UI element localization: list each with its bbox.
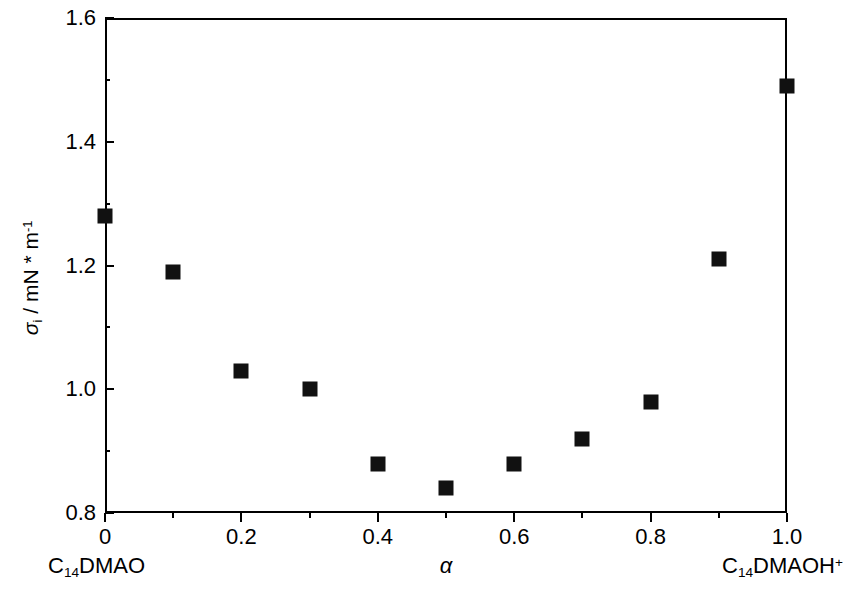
endpoint-left-subscript: 14 bbox=[64, 565, 79, 580]
endpoint-left-suffix: DMAO bbox=[79, 553, 145, 578]
endpoint-right-subscript: 14 bbox=[738, 565, 753, 580]
data-point-marker bbox=[711, 252, 726, 267]
x-tick-major bbox=[377, 513, 379, 522]
endpoint-label-right: C14DMAOH+ bbox=[722, 553, 843, 580]
data-point-marker bbox=[780, 79, 795, 94]
endpoint-right-superscript: + bbox=[835, 555, 843, 570]
y-tick-major bbox=[105, 265, 114, 267]
x-tick-minor bbox=[445, 513, 447, 518]
data-point-marker bbox=[643, 394, 658, 409]
data-point-marker bbox=[507, 456, 522, 471]
data-point-marker bbox=[575, 431, 590, 446]
x-tick-minor bbox=[581, 513, 583, 518]
y-tick-minor bbox=[105, 79, 110, 81]
data-point-marker bbox=[302, 382, 317, 397]
y-tick-minor bbox=[105, 450, 110, 452]
x-tick-major bbox=[786, 513, 788, 522]
x-tick-label: 0.2 bbox=[226, 525, 257, 549]
x-tick-label: 0.6 bbox=[499, 525, 530, 549]
x-tick-major bbox=[513, 513, 515, 522]
x-tick-label: 0 bbox=[99, 525, 111, 549]
x-tick-major bbox=[240, 513, 242, 522]
x-tick-minor bbox=[172, 513, 174, 518]
endpoint-left-prefix: C bbox=[48, 553, 64, 578]
endpoint-right-suffix: DMAOH bbox=[753, 553, 835, 578]
data-point-marker bbox=[439, 481, 454, 496]
x-tick-label: 1.0 bbox=[772, 525, 803, 549]
y-axis-unit-exponent: -1 bbox=[20, 220, 35, 232]
y-axis-units: / mN * m bbox=[19, 232, 42, 320]
y-axis-sigma-symbol: σ bbox=[19, 322, 42, 335]
data-point-marker bbox=[370, 456, 385, 471]
x-axis-alpha-symbol: α bbox=[440, 553, 453, 578]
endpoint-label-left: C14DMAO bbox=[48, 553, 145, 580]
x-axis-label: α bbox=[440, 553, 453, 579]
y-tick-major bbox=[105, 141, 114, 143]
y-tick-major bbox=[105, 512, 114, 514]
y-tick-label: 1.6 bbox=[34, 7, 96, 29]
x-tick-major bbox=[650, 513, 652, 522]
y-axis-sigma-subscript: i bbox=[30, 320, 45, 323]
y-tick-minor bbox=[105, 326, 110, 328]
x-tick-label: 0.4 bbox=[363, 525, 394, 549]
y-tick-label: 0.8 bbox=[34, 502, 96, 524]
y-tick-major bbox=[105, 388, 114, 390]
x-tick-label: 0.8 bbox=[635, 525, 666, 549]
endpoint-right-prefix: C bbox=[722, 553, 738, 578]
y-tick-major bbox=[105, 17, 114, 19]
x-tick-minor bbox=[309, 513, 311, 518]
y-axis-label: σi / mN * m-1 bbox=[19, 128, 45, 428]
data-point-marker bbox=[166, 264, 181, 279]
data-point-marker bbox=[98, 209, 113, 224]
x-tick-major bbox=[104, 513, 106, 522]
x-tick-minor bbox=[718, 513, 720, 518]
plot-area-frame bbox=[105, 18, 787, 513]
y-tick-minor bbox=[105, 203, 110, 205]
data-point-marker bbox=[234, 363, 249, 378]
